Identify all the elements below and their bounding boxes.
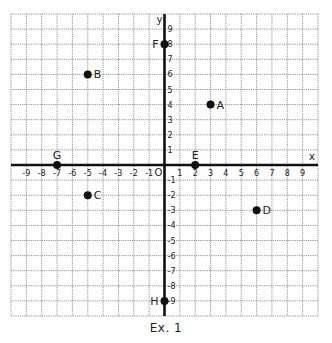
x-tick-label: -9 bbox=[22, 169, 30, 178]
y-tick-label: -3 bbox=[168, 206, 176, 215]
point-g bbox=[53, 161, 61, 169]
point-b bbox=[84, 70, 92, 78]
y-tick-label: -4 bbox=[168, 221, 176, 230]
x-tick-label: 1 bbox=[177, 169, 182, 178]
x-tick-label: -2 bbox=[130, 169, 138, 178]
y-tick-label: -9 bbox=[168, 297, 176, 306]
point-c bbox=[84, 191, 92, 199]
x-tick-label: -3 bbox=[114, 169, 122, 178]
y-tick-label: 5 bbox=[168, 86, 173, 95]
x-tick-label: 6 bbox=[254, 169, 259, 178]
x-tick-label: -8 bbox=[38, 169, 46, 178]
y-tick-label: 9 bbox=[168, 25, 173, 34]
point-label-h: H bbox=[150, 295, 158, 308]
point-label-a: A bbox=[217, 99, 225, 112]
x-tick-label: -4 bbox=[99, 169, 107, 178]
point-label-d: D bbox=[263, 204, 271, 217]
point-e bbox=[191, 161, 199, 169]
point-label-c: C bbox=[94, 189, 102, 202]
y-tick-label: -2 bbox=[168, 191, 176, 200]
y-tick-label: 2 bbox=[168, 131, 173, 140]
x-axis-label: x bbox=[309, 151, 315, 162]
x-tick-label: 5 bbox=[239, 169, 244, 178]
x-tick-label: 7 bbox=[269, 169, 274, 178]
y-tick-label: -5 bbox=[168, 237, 176, 246]
x-tick-label: 4 bbox=[223, 169, 228, 178]
y-tick-label: 1 bbox=[168, 146, 173, 155]
point-h bbox=[161, 297, 169, 305]
x-tick-label: 9 bbox=[300, 169, 305, 178]
x-tick-label: -5 bbox=[84, 169, 92, 178]
point-label-b: B bbox=[94, 68, 102, 81]
y-tick-label: 3 bbox=[168, 116, 173, 125]
x-tick-label: 8 bbox=[285, 169, 290, 178]
y-tick-label: -6 bbox=[168, 252, 176, 261]
coordinate-plane: xy -9-8-7-6-5-4-3-2-1123456789-9-8-7-6-5… bbox=[0, 0, 332, 343]
y-tick-label: -7 bbox=[168, 267, 176, 276]
point-label-f: F bbox=[152, 38, 158, 51]
x-tick-label: -7 bbox=[53, 169, 61, 178]
y-axis-label: y bbox=[157, 14, 163, 25]
point-label-g: G bbox=[53, 149, 62, 162]
x-tick-label: -1 bbox=[145, 169, 153, 178]
origin-label: O bbox=[155, 167, 163, 178]
figure-caption: Ex. 1 bbox=[0, 321, 332, 335]
y-tick-label: -1 bbox=[168, 176, 176, 185]
x-tick-label: 3 bbox=[208, 169, 213, 178]
point-label-e: E bbox=[192, 149, 199, 162]
point-d bbox=[253, 206, 261, 214]
y-tick-label: 4 bbox=[168, 101, 173, 110]
y-tick-label: 6 bbox=[168, 70, 173, 79]
x-tick-label: -6 bbox=[68, 169, 76, 178]
point-f bbox=[161, 40, 169, 48]
y-tick-label: 7 bbox=[168, 55, 173, 64]
y-tick-label: -8 bbox=[168, 282, 176, 291]
point-a bbox=[207, 101, 215, 109]
x-tick-label: 2 bbox=[193, 169, 198, 178]
